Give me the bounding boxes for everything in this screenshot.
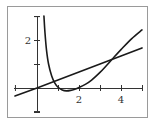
chart: 242	[0, 0, 154, 123]
y-tick-label: 2	[25, 35, 31, 46]
x-tick-label: 2	[76, 94, 82, 105]
x-tick-label: 4	[118, 94, 124, 105]
